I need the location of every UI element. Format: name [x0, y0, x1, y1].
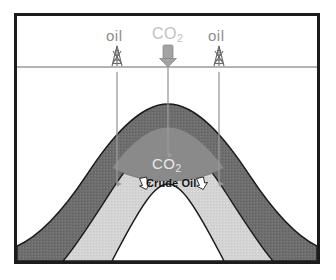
label-co2-injection-sub: 2: [177, 32, 184, 44]
diagram-canvas: oil oil CO2 CO2 Crude Oil: [0, 0, 336, 280]
label-co2-reservoir-text: CO: [152, 155, 176, 172]
label-crude-oil: Crude Oil: [146, 177, 196, 189]
label-oil-right: oil: [208, 27, 225, 44]
label-co2-injection: CO2: [152, 25, 184, 44]
label-co2-injection-text: CO: [152, 25, 177, 42]
label-co2-reservoir: CO2: [152, 155, 182, 174]
co2-injector-icon: [160, 45, 177, 67]
oil-derrick-icon-left: [112, 46, 122, 66]
oil-derrick-icon-right: [214, 46, 224, 66]
label-oil-left: oil: [106, 27, 123, 44]
label-co2-reservoir-sub: 2: [176, 163, 182, 174]
